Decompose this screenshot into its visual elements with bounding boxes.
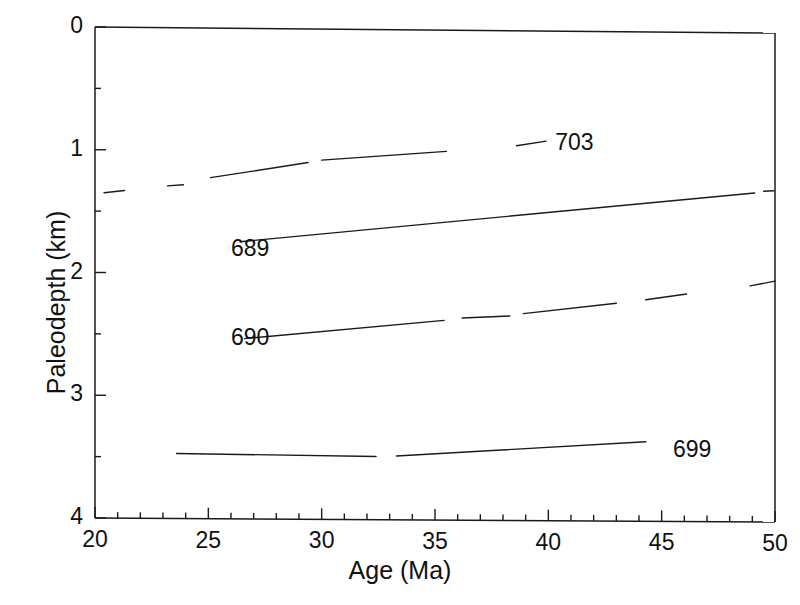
curve-699 — [177, 442, 646, 457]
curve-segment-689-1 — [764, 191, 774, 192]
curve-label-699: 699 — [673, 436, 711, 463]
plot-border-top — [95, 27, 775, 33]
curve-segment-703-0 — [104, 190, 124, 192]
curve-689 — [240, 191, 774, 242]
curve-segment-690-1 — [462, 316, 510, 318]
curve-690 — [245, 281, 775, 338]
curve-703 — [104, 141, 546, 193]
x-axis-title: Age (Ma) — [0, 556, 800, 585]
x-tick-label-40: 40 — [518, 529, 578, 556]
curve-segment-699-1 — [396, 442, 645, 456]
x-tick-label-20: 20 — [65, 526, 125, 553]
curve-segment-703-4 — [517, 141, 546, 146]
curve-segment-703-1 — [168, 185, 184, 186]
y-tick-label-2: 2 — [43, 258, 83, 285]
curve-label-703: 703 — [555, 129, 593, 156]
x-tick-label-25: 25 — [178, 527, 238, 554]
y-tick-label-1: 1 — [43, 135, 83, 162]
x-tick-label-45: 45 — [632, 529, 692, 556]
curve-segment-690-4 — [750, 281, 775, 286]
curve-segment-689-0 — [240, 193, 755, 242]
x-tick-label-50: 50 — [745, 530, 800, 557]
curve-label-690: 690 — [231, 324, 269, 351]
curve-segment-699-0 — [177, 453, 376, 456]
curve-segment-703-2 — [211, 163, 308, 178]
y-tick-label-4: 4 — [43, 503, 83, 530]
curve-segment-703-3 — [322, 151, 447, 160]
paleodepth-age-chart: Age (Ma) Paleodepth (km) 20253035404550 … — [0, 0, 800, 605]
data-curves — [104, 141, 775, 456]
curve-segment-690-2 — [523, 303, 616, 313]
plot-canvas — [0, 0, 800, 605]
y-tick-label-0: 0 — [43, 12, 83, 39]
x-tick-label-30: 30 — [292, 527, 352, 554]
x-tick-label-35: 35 — [405, 528, 465, 555]
curve-segment-690-3 — [646, 294, 687, 300]
y-tick-label-3: 3 — [43, 380, 83, 407]
curve-segment-690-0 — [245, 320, 444, 338]
curve-label-689: 689 — [231, 235, 269, 262]
